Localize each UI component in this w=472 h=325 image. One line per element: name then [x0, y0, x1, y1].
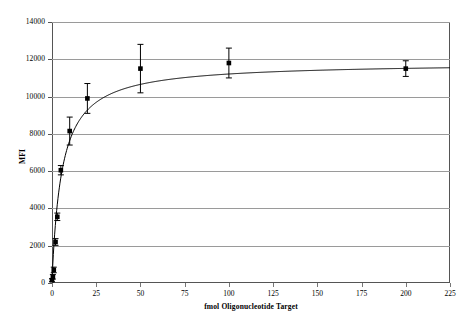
x-tick-mark	[185, 283, 186, 287]
gridline-y	[52, 246, 450, 247]
y-tick-mark	[48, 97, 52, 98]
x-tick-mark	[52, 283, 53, 287]
x-tick-label: 225	[430, 290, 470, 298]
x-tick-label: 125	[253, 290, 293, 298]
x-tick-label: 100	[209, 290, 249, 298]
y-tick-label: 14000	[26, 18, 45, 26]
y-tick-label: 8000	[30, 130, 45, 138]
gridline-y	[52, 97, 450, 98]
x-tick-mark	[317, 283, 318, 287]
y-tick-mark	[48, 134, 52, 135]
x-tick-label: 150	[297, 290, 337, 298]
y-tick-label: 0	[41, 279, 45, 287]
y-tick-label: 10000	[26, 93, 45, 101]
x-tick-label: 25	[76, 290, 116, 298]
y-tick-label: 12000	[26, 55, 45, 63]
y-tick-mark	[48, 59, 52, 60]
x-tick-label: 200	[386, 290, 426, 298]
x-tick-mark	[406, 283, 407, 287]
x-tick-label: 175	[342, 290, 382, 298]
y-tick-mark	[48, 171, 52, 172]
gridline-y	[52, 208, 450, 209]
y-tick-label: 4000	[30, 204, 45, 212]
x-axis-title: fmol Oligonucleotide Target	[151, 302, 351, 311]
plot-area	[52, 22, 450, 283]
chart-figure: 02000400060008000100001200014000 0255075…	[0, 0, 472, 325]
gridline-y	[52, 134, 450, 135]
y-tick-label: 2000	[30, 242, 45, 250]
x-tick-label: 0	[32, 290, 72, 298]
y-tick-mark	[48, 22, 52, 23]
x-tick-mark	[229, 283, 230, 287]
y-axis-title: MFI	[18, 148, 27, 163]
x-tick-mark	[362, 283, 363, 287]
x-tick-mark	[140, 283, 141, 287]
x-tick-mark	[96, 283, 97, 287]
x-tick-label: 50	[120, 290, 160, 298]
y-tick-label: 6000	[30, 167, 45, 175]
gridline-y	[52, 171, 450, 172]
y-tick-mark	[48, 208, 52, 209]
y-tick-mark	[48, 246, 52, 247]
gridline-y	[52, 59, 450, 60]
x-tick-mark	[273, 283, 274, 287]
gridline-y	[52, 22, 450, 23]
x-tick-label: 75	[165, 290, 205, 298]
x-tick-mark	[450, 283, 451, 287]
